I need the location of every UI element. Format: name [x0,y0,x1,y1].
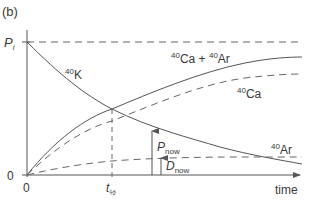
half-life-label: t½ [106,182,116,197]
ar40-label: 40Ar [271,143,292,156]
ca-ar-label: 40Ca + 40Ar [171,52,230,65]
ca40-label: 40Ca [237,87,261,100]
d-now-label: Dnow [166,160,189,175]
y-zero-label: 0 [7,170,14,182]
k40-label: 40K [65,68,82,81]
y-top-label: Pi [4,36,14,52]
panel-label: (b) [2,5,18,18]
x-axis-label: time [275,184,298,196]
x-zero-label: 0 [23,182,30,194]
decay-diagram [0,0,310,204]
p-now-label: Pnow [157,141,180,156]
ar40-curve [27,157,302,175]
